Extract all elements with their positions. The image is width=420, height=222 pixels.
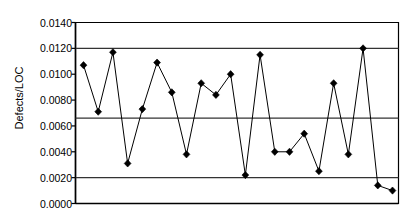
data-series-group: [80, 45, 396, 194]
data-line: [84, 48, 393, 190]
data-point-marker: [154, 59, 161, 66]
data-point-marker: [271, 148, 278, 155]
data-point-marker: [198, 80, 205, 87]
data-point-marker: [183, 151, 190, 158]
axes-group: [76, 23, 399, 204]
data-point-marker: [330, 80, 337, 87]
data-point-marker: [124, 160, 131, 167]
axis-frame: [76, 23, 399, 204]
data-point-marker: [345, 151, 352, 158]
reference-line-group: [76, 48, 399, 177]
data-point-marker: [95, 108, 102, 115]
defects-per-loc-control-chart: Defects/LOC 0.00000.00200.00400.00600.00…: [0, 0, 420, 222]
data-point-marker: [374, 182, 381, 189]
data-point-marker: [389, 187, 396, 194]
data-point-marker: [316, 168, 323, 175]
data-point-marker: [360, 45, 367, 52]
data-point-marker: [139, 106, 146, 113]
plot-area: [0, 0, 420, 222]
data-point-marker: [110, 49, 117, 56]
data-point-marker: [168, 89, 175, 96]
data-point-marker: [80, 62, 87, 69]
data-point-marker: [257, 51, 264, 58]
